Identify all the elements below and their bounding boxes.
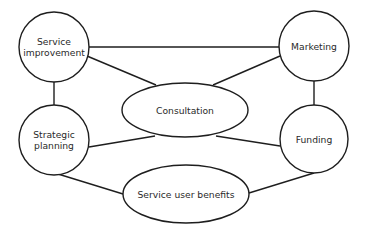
edge-service-user-benefits-to-funding [249,173,314,193]
edge-strategic-planning-to-consultation [89,136,155,147]
node-label: improvement [23,47,85,58]
node-label: Funding [296,134,332,145]
diagram-canvas: ServiceimprovementMarketingStrategicplan… [0,0,366,234]
nodes-layer: ServiceimprovementMarketingStrategicplan… [19,11,349,223]
edge-strategic-planning-to-service-user-benefits [58,174,123,194]
node-consultation: Consultation [122,83,248,137]
node-label: Service [37,36,71,47]
edge-service-improvement-to-consultation [87,56,156,85]
node-label: Service user benefits [138,189,235,200]
node-strategic-planning: Strategicplanning [19,105,89,175]
node-label: Consultation [156,105,214,116]
edge-consultation-to-funding [216,136,280,146]
node-service-improvement: Serviceimprovement [19,12,89,82]
node-marketing: Marketing [279,11,349,81]
node-label: planning [34,140,74,151]
node-label: Strategic [33,129,75,140]
node-funding: Funding [280,105,348,173]
edge-marketing-to-consultation [213,56,280,85]
node-label: Marketing [291,41,337,52]
node-service-user-benefits: Service user benefits [123,165,249,223]
